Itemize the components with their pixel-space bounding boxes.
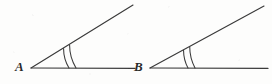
angle-B-arc-outer: [190, 47, 195, 68]
angle-B-arc-inner: [184, 50, 188, 68]
angle-A-group: [31, 5, 135, 68]
angle-A-terminal-ray: [31, 5, 133, 68]
angle-A-arc-inner: [64, 48, 69, 68]
angle-B-terminal-ray: [150, 6, 264, 68]
vertex-label-a: A: [15, 60, 24, 73]
geometry-figure: A B: [0, 0, 272, 84]
angle-A-arc-outer: [70, 45, 76, 68]
vertex-label-b: B: [134, 60, 143, 73]
angle-B-group: [150, 6, 268, 68]
